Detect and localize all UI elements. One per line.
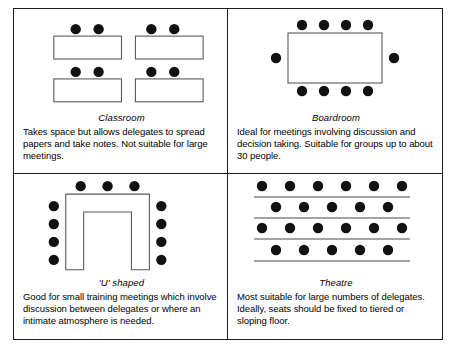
seat-dot bbox=[169, 67, 179, 77]
seat-dot bbox=[397, 181, 407, 191]
layout-title: Theatre bbox=[237, 278, 435, 288]
seat-dot bbox=[49, 237, 59, 247]
seat-dot bbox=[297, 86, 307, 96]
panel-boardroom: Boardroom Ideal for meetings involving d… bbox=[228, 9, 442, 174]
table-shape bbox=[135, 79, 203, 102]
table-shape bbox=[54, 36, 122, 59]
layout-title: Classroom bbox=[23, 113, 220, 123]
seat-dot bbox=[49, 201, 59, 211]
seat-dot bbox=[146, 24, 156, 34]
seat-dot bbox=[327, 245, 337, 255]
seat-dot bbox=[49, 255, 59, 265]
boardroom-svg bbox=[228, 9, 442, 113]
panel-u-shaped: 'U' shaped Good for small training meeti… bbox=[14, 174, 228, 339]
seat-dot bbox=[341, 86, 351, 96]
seat-dot bbox=[341, 181, 351, 191]
seat-dot bbox=[383, 202, 393, 212]
u-shaped-diagram bbox=[14, 174, 227, 278]
seat-dot bbox=[156, 219, 166, 229]
layout-description: Ideal for meetings involving discussion … bbox=[237, 126, 435, 161]
boardroom-caption: Boardroom Ideal for meetings involving d… bbox=[228, 113, 442, 161]
table-shape bbox=[135, 36, 203, 59]
seat-dot bbox=[76, 181, 86, 191]
meeting-layouts-figure: Classroom Takes space but allows delegat… bbox=[13, 8, 443, 340]
seat-dot bbox=[49, 219, 59, 229]
seat-dot bbox=[271, 245, 281, 255]
seat-dot bbox=[93, 24, 103, 34]
seat-dot bbox=[169, 24, 179, 34]
seat-dot bbox=[271, 202, 281, 212]
layout-title: 'U' shaped bbox=[23, 278, 220, 288]
seat-dot bbox=[389, 53, 399, 63]
seat-dot bbox=[285, 181, 295, 191]
seat-dot bbox=[363, 86, 373, 96]
panel-theatre: Theatre Most suitable for large numbers … bbox=[228, 174, 442, 339]
seat-dot bbox=[355, 245, 365, 255]
seat-dot bbox=[146, 67, 156, 77]
seat-dot bbox=[271, 53, 281, 63]
seat-dot bbox=[297, 20, 307, 30]
layout-grid: Classroom Takes space but allows delegat… bbox=[14, 9, 442, 339]
table-shape bbox=[288, 33, 382, 83]
panel-classroom: Classroom Takes space but allows delegat… bbox=[14, 9, 228, 174]
u-shaped-svg bbox=[14, 174, 227, 278]
classroom-diagram bbox=[14, 9, 227, 113]
seat-dot bbox=[369, 181, 379, 191]
seat-dot bbox=[299, 245, 309, 255]
seat-dot bbox=[156, 237, 166, 247]
seat-dot bbox=[285, 223, 295, 233]
seat-dot bbox=[383, 245, 393, 255]
seat-dot bbox=[341, 223, 351, 233]
layout-description: Most suitable for large numbers of deleg… bbox=[237, 291, 435, 326]
seat-dot bbox=[257, 181, 267, 191]
seat-dot bbox=[313, 181, 323, 191]
theatre-caption: Theatre Most suitable for large numbers … bbox=[228, 278, 442, 326]
seat-dot bbox=[71, 67, 81, 77]
seat-dot bbox=[156, 201, 166, 211]
seat-dot bbox=[341, 20, 351, 30]
layout-title: Boardroom bbox=[237, 113, 435, 123]
u-shaped-caption: 'U' shaped Good for small training meeti… bbox=[14, 278, 227, 326]
table-shape bbox=[54, 79, 122, 102]
seat-dot bbox=[102, 181, 112, 191]
seat-dot bbox=[319, 20, 329, 30]
seat-dot bbox=[129, 181, 139, 191]
theatre-svg bbox=[228, 174, 442, 278]
seat-dot bbox=[93, 67, 103, 77]
table-shape bbox=[66, 194, 150, 270]
layout-description: Good for small training meetings which i… bbox=[23, 291, 220, 326]
seat-dot bbox=[299, 202, 309, 212]
seat-dot bbox=[363, 20, 373, 30]
seat-dot bbox=[313, 223, 323, 233]
seat-dot bbox=[355, 202, 365, 212]
seat-dot bbox=[319, 86, 329, 96]
seat-dot bbox=[71, 24, 81, 34]
boardroom-diagram bbox=[228, 9, 442, 113]
classroom-svg bbox=[14, 9, 227, 113]
theatre-diagram bbox=[228, 174, 442, 278]
classroom-caption: Classroom Takes space but allows delegat… bbox=[14, 113, 227, 161]
seat-dot bbox=[327, 202, 337, 212]
seat-dot bbox=[156, 255, 166, 265]
seat-dot bbox=[257, 223, 267, 233]
seat-dot bbox=[369, 223, 379, 233]
seat-dot bbox=[397, 223, 407, 233]
layout-description: Takes space but allows delegates to spre… bbox=[23, 126, 220, 161]
